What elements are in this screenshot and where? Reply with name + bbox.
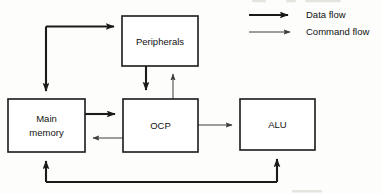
legend-label-data-flow: Data flow	[306, 9, 346, 20]
legend-item-data-flow: Data flow	[249, 9, 346, 20]
legend: Data flow Command flow	[249, 9, 369, 37]
node-main-memory-label-line1: Main	[36, 113, 57, 124]
node-alu-label: ALU	[268, 119, 287, 130]
scan-artifact-top	[252, 0, 341, 2]
node-peripherals-label: Peripherals	[136, 36, 184, 47]
node-main-memory[interactable]: Main memory	[8, 99, 85, 152]
edge-alu-to-main-memory	[46, 159, 277, 182]
edge-peripherals-to-main-memory	[46, 27, 114, 92]
legend-label-command-flow: Command flow	[306, 26, 369, 37]
node-alu[interactable]: ALU	[240, 99, 315, 150]
node-peripherals[interactable]: Peripherals	[122, 16, 198, 66]
node-main-memory-label-line2: memory	[29, 127, 64, 138]
legend-item-command-flow: Command flow	[249, 26, 369, 37]
diagram-canvas: Peripherals Main memory OCP ALU Data flo…	[0, 0, 381, 194]
node-ocp-label: OCP	[150, 120, 171, 131]
block-diagram: Peripherals Main memory OCP ALU Data flo…	[0, 0, 381, 194]
node-ocp[interactable]: OCP	[123, 99, 198, 152]
scan-artifact-bottom	[292, 190, 322, 192]
